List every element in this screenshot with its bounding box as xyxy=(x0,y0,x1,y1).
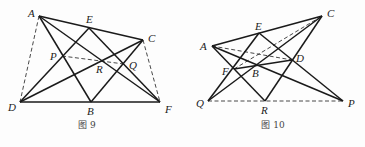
segment-ad-dashed xyxy=(20,16,39,102)
point-label-p: P xyxy=(49,50,57,62)
segment-fc-dashed xyxy=(234,16,322,69)
point-label-r: R xyxy=(95,63,103,75)
segment-qc xyxy=(208,16,322,101)
point-label-d: D xyxy=(295,52,304,64)
point-label-d: D xyxy=(7,101,16,113)
point-label-a: A xyxy=(199,40,207,52)
point-label-e: E xyxy=(254,20,262,32)
point-label-b: B xyxy=(87,105,94,117)
figure-10: CEADBFQRP图 10 xyxy=(196,7,355,130)
segment-pq-dashed xyxy=(62,56,124,64)
segment-dc xyxy=(20,40,143,102)
diagram-canvas: AECPRQDBF图 9CEADBFQRP图 10 xyxy=(0,0,365,147)
figure-caption: 图 10 xyxy=(261,120,285,130)
point-label-p: P xyxy=(347,97,355,109)
point-label-c: C xyxy=(148,32,156,44)
figure-caption: 图 9 xyxy=(78,120,96,130)
figure-9: AECPRQDBF图 9 xyxy=(7,7,172,130)
segment-af xyxy=(39,16,160,102)
point-label-c: C xyxy=(327,7,335,19)
segment-de xyxy=(20,28,89,102)
point-label-b: B xyxy=(252,67,259,79)
point-label-a: A xyxy=(27,7,35,19)
point-label-q: Q xyxy=(129,59,137,71)
point-label-q: Q xyxy=(196,97,204,109)
point-label-e: E xyxy=(85,13,93,25)
point-label-r: R xyxy=(260,104,268,116)
point-label-f: F xyxy=(164,103,172,115)
segment-ap xyxy=(212,46,343,101)
geometry-diagram: AECPRQDBF图 9CEADBFQRP图 10 xyxy=(0,0,365,147)
point-label-f: F xyxy=(221,65,229,77)
